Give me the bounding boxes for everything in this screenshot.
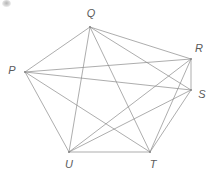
vertex-layer [24, 26, 192, 153]
vertex-label-t: T [150, 159, 157, 170]
graph-edge-ru [69, 59, 191, 152]
vertex-label-u: U [65, 159, 73, 170]
graph-edge-pu [25, 72, 69, 152]
vertex-label-s: S [198, 89, 205, 100]
graph-vertex-q [89, 26, 91, 28]
graph-vertex-p [24, 71, 26, 73]
graph-vertex-u [68, 151, 70, 153]
graph-vertex-s [190, 89, 192, 91]
graph-edge-pq [25, 27, 90, 72]
graph-edge-qr [90, 27, 191, 59]
graph-canvas [0, 0, 213, 173]
graph-edge-qu [69, 27, 90, 152]
graph-edge-su [69, 90, 191, 152]
edge-layer [25, 27, 191, 152]
graph-edge-pt [25, 72, 150, 152]
vertex-label-q: Q [87, 8, 96, 19]
graph-edge-pr [25, 59, 191, 72]
graph-vertex-t [149, 151, 151, 153]
vertex-label-p: P [8, 65, 15, 76]
graph-figure: PQRSTU [0, 0, 213, 173]
graph-edge-rt [150, 59, 191, 152]
graph-edge-st [150, 90, 191, 152]
graph-vertex-r [190, 58, 192, 60]
vertex-label-r: R [195, 43, 203, 54]
